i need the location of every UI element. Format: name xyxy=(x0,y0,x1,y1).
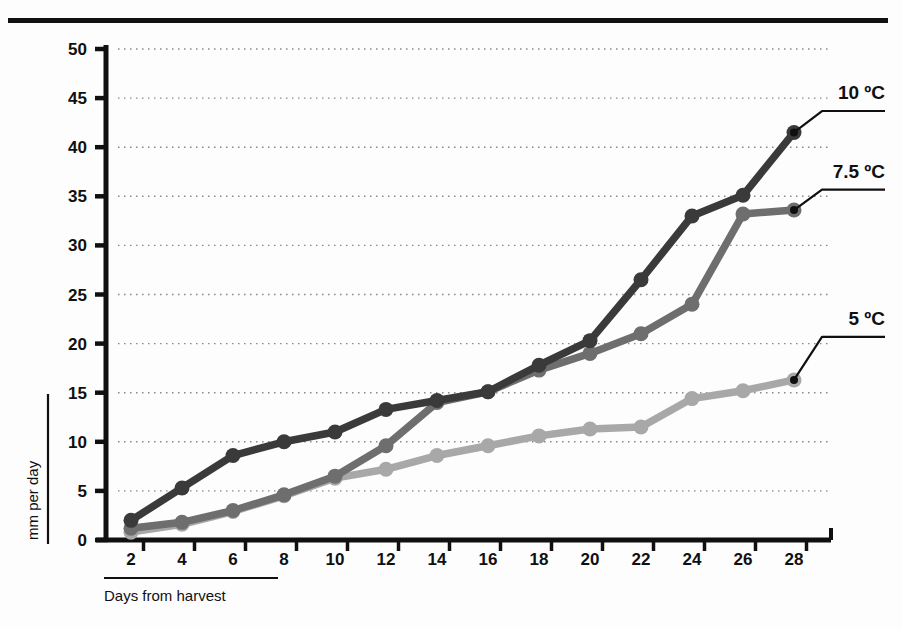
data-point xyxy=(532,358,547,373)
series-label-1: 7.5 ºC xyxy=(833,161,886,182)
x-tick-label-4: 4 xyxy=(177,550,187,569)
figure-container: 05101520253035404550 2468101214161820222… xyxy=(0,0,902,629)
data-point xyxy=(328,424,343,439)
data-point xyxy=(277,487,292,502)
y-tick-label-25: 25 xyxy=(68,286,87,305)
leader-anchor-dot xyxy=(790,376,798,384)
y-axis: 05101520253035404550 xyxy=(68,40,108,550)
data-point xyxy=(226,503,241,518)
grid-lines xyxy=(118,49,828,491)
data-point xyxy=(685,297,700,312)
x-tick-label-22: 22 xyxy=(632,550,651,569)
data-point xyxy=(226,448,241,463)
data-point xyxy=(583,422,598,437)
leader-line-0 xyxy=(794,111,885,132)
y-tick-label-10: 10 xyxy=(68,433,87,452)
data-point xyxy=(175,515,190,530)
data-point xyxy=(685,391,700,406)
data-point xyxy=(277,434,292,449)
x-tick-label-20: 20 xyxy=(581,550,600,569)
data-point xyxy=(481,438,496,453)
x-tick-label-28: 28 xyxy=(785,550,804,569)
y-tick-label-0: 0 xyxy=(78,531,87,550)
y-tick-label-20: 20 xyxy=(68,335,87,354)
data-point xyxy=(379,402,394,417)
y-tick-label-15: 15 xyxy=(68,384,87,403)
data-point xyxy=(532,428,547,443)
data-point xyxy=(124,513,139,528)
y-tick-label-5: 5 xyxy=(78,482,87,501)
y-tick-label-50: 50 xyxy=(68,40,87,59)
y-axis-title: mm per day xyxy=(24,460,41,540)
data-point xyxy=(430,393,445,408)
series-label-0: 10 ºC xyxy=(838,82,885,103)
x-tick-label-6: 6 xyxy=(228,550,237,569)
x-tick-label-10: 10 xyxy=(326,550,345,569)
y-tick-label-30: 30 xyxy=(68,236,87,255)
data-point xyxy=(583,346,598,361)
x-tick-label-26: 26 xyxy=(734,550,753,569)
y-tick-label-40: 40 xyxy=(68,138,87,157)
x-tick-label-14: 14 xyxy=(428,550,447,569)
x-tick-label-18: 18 xyxy=(530,550,549,569)
data-point xyxy=(379,438,394,453)
x-axis: 246810121416182022242628 xyxy=(96,528,831,569)
data-point xyxy=(736,383,751,398)
series-labels-layer: 10 ºC7.5 ºC5 ºC xyxy=(790,82,885,384)
y-tick-label-45: 45 xyxy=(68,89,87,108)
x-tick-label-24: 24 xyxy=(683,550,702,569)
y-tick-label-35: 35 xyxy=(68,187,87,206)
data-point xyxy=(634,420,649,435)
x-tick-label-8: 8 xyxy=(279,550,288,569)
series-layer xyxy=(124,125,802,540)
line-chart: 05101520253035404550 2468101214161820222… xyxy=(0,0,902,629)
leader-line-2 xyxy=(794,337,885,380)
data-point xyxy=(736,206,751,221)
leader-anchor-dot xyxy=(790,206,798,214)
data-point xyxy=(634,326,649,341)
series-label-2: 5 ºC xyxy=(848,308,885,329)
x-tick-label-16: 16 xyxy=(479,550,498,569)
data-point xyxy=(583,333,598,348)
data-point xyxy=(379,462,394,477)
data-point xyxy=(430,448,445,463)
x-tick-label-2: 2 xyxy=(126,550,135,569)
data-point xyxy=(736,188,751,203)
data-point xyxy=(634,272,649,287)
data-point xyxy=(328,469,343,484)
x-axis-title: Days from harvest xyxy=(104,587,227,604)
leader-anchor-dot xyxy=(790,128,798,136)
data-point xyxy=(481,384,496,399)
leader-line-1 xyxy=(794,190,885,210)
data-point xyxy=(175,480,190,495)
data-point xyxy=(685,208,700,223)
x-tick-label-12: 12 xyxy=(377,550,396,569)
series-line-1 xyxy=(131,210,794,528)
axis-titles-layer: Days from harvestmm per day xyxy=(24,394,278,604)
